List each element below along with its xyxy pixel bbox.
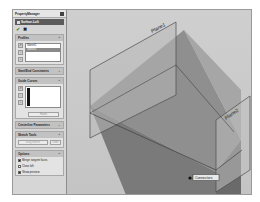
ok-cancel-row: ✔ ✖ [13, 26, 66, 32]
constraints-group-header[interactable]: Start/End Constraints ⌄ [16, 68, 63, 74]
constraints-group-label: Start/End Constraints [18, 69, 49, 73]
centerline-group: Centerline Parameters ⌄ [15, 121, 64, 129]
drag-sketch-button[interactable]: Drag Sketch [18, 140, 48, 145]
profile-select-icon[interactable]: ↗ [18, 43, 23, 48]
graphics-viewport[interactable]: Plane1 Plane2 Connectors [66, 10, 252, 195]
centerline-group-header[interactable]: Centerline Parameters ⌄ [16, 122, 63, 128]
show-preview-checkbox[interactable] [18, 171, 21, 174]
connector-callout-text: Connectors [195, 176, 213, 180]
feature-title-bar: Surface-Loft [15, 19, 64, 25]
profiles-group: Profiles ⌃ ↗ ↑ ↓ Sketch1 Sketch2 [15, 34, 64, 65]
property-manager-header: PropertyManager [13, 10, 66, 18]
collapse-chevron-icon[interactable]: ⌃ [58, 133, 61, 137]
property-manager-panel: PropertyManager Surface-Loft ✔ ✖ Profile… [13, 10, 67, 195]
collapse-chevron-icon[interactable]: ⌃ [58, 152, 61, 156]
sketch-tools-group-label: Sketch Tools [18, 133, 36, 137]
guide-curves-group: Guide Curves ⌃ ↗ ↑ ↓ Faces [15, 77, 64, 119]
option-label: Show preview [22, 170, 39, 174]
profiles-list[interactable]: Sketch1 Sketch2 [25, 43, 61, 62]
show-preview-option[interactable]: Show preview [16, 169, 63, 175]
x-icon[interactable]: ✖ [23, 27, 27, 32]
move-down-icon[interactable]: ↓ [18, 57, 23, 62]
close-loft-checkbox[interactable] [18, 165, 21, 168]
expand-chevron-icon[interactable]: ⌄ [58, 123, 61, 127]
surface-loft-icon [17, 21, 20, 24]
check-icon[interactable]: ✔ [16, 27, 20, 32]
application-window: Plane1 Plane2 Connectors PropertyManager… [12, 9, 252, 195]
option-label: Close loft [22, 164, 34, 168]
options-group: Options ⌃ Merge tangent faces Close loft… [15, 150, 64, 176]
collapse-chevron-icon[interactable]: ⌃ [58, 79, 61, 83]
option-label: Merge tangent faces [22, 158, 48, 162]
guide-curve-select-icon[interactable]: ↗ [18, 86, 23, 91]
list-scroll-bar[interactable] [27, 88, 30, 106]
list-item[interactable]: Sketch2 [26, 48, 60, 52]
move-up-icon[interactable]: ↑ [18, 93, 23, 98]
centerline-group-label: Centerline Parameters [18, 123, 50, 127]
options-group-label: Options [18, 152, 29, 156]
loft-preview-graphic: Plane1 Plane2 Connectors [66, 10, 252, 195]
constraints-group: Start/End Constraints ⌄ [15, 67, 64, 75]
guide-curves-list[interactable] [25, 86, 61, 108]
pin-icon[interactable] [60, 12, 64, 16]
guide-curves-group-label: Guide Curves [18, 79, 38, 83]
property-manager-title: PropertyManager [15, 12, 40, 16]
profiles-group-label: Profiles [18, 36, 29, 40]
move-down-icon[interactable]: ↓ [18, 100, 23, 105]
expand-chevron-icon[interactable]: ⌄ [58, 69, 61, 73]
move-up-icon[interactable]: ↑ [18, 50, 23, 55]
connector-handle[interactable] [188, 176, 191, 179]
undo-sketch-drag-button[interactable]: Undo [50, 140, 61, 145]
collapse-chevron-icon[interactable]: ⌃ [58, 36, 61, 40]
merge-tangent-faces-checkbox[interactable] [18, 159, 21, 162]
sketch-tools-group: Sketch Tools ⌃ Drag Sketch Undo [15, 131, 64, 148]
feature-name: Surface-Loft [21, 20, 39, 24]
guide-curve-influence-dropdown[interactable]: Faces [28, 112, 59, 117]
